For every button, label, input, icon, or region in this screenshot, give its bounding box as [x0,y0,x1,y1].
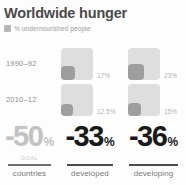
stat-unit: % [43,136,54,148]
stat-unit: % [167,136,178,148]
row-label-period: 2010–12 [6,95,37,104]
data-cell: 23% [128,48,160,80]
data-cell: 12.5% [61,84,93,116]
header: Worldwide hunger % undernourished people [4,6,182,32]
stat-developed: -33 % developed [59,120,121,185]
stat-figure: -36 % [121,122,186,151]
stat-caption: developed [59,169,121,178]
row-label-period: 1990–92 [6,59,37,68]
cell-inner-square [128,64,144,80]
cell-outer-square [61,84,93,116]
stat-number: -33 [65,122,102,151]
legend-swatch-icon [4,25,11,32]
stat-goal-note: GOAL [0,155,59,161]
cell-outer-square [128,48,160,80]
table-row: 2010–12 12.5% 15% [0,82,186,118]
cell-inner-square [61,66,75,80]
stat-number: -36 [129,122,166,151]
infographic-root: Worldwide hunger % undernourished people… [0,0,186,185]
data-cell: 15% [128,84,160,116]
legend-label: % undernourished people [14,25,90,32]
hunger-matrix: 1990–92 17% 23% 2010–12 12.5% [0,46,186,120]
stat-divider [67,164,113,166]
stats-row: -50 % GOAL countries -33 % developed -36… [0,120,186,185]
stat-number: -50 [5,122,42,151]
data-cell: 17% [61,48,93,80]
cell-value-label: 12.5% [97,108,115,115]
cell-inner-square [128,103,141,116]
cell-value-label: 15% [164,108,177,115]
page-title: Worldwide hunger [4,6,182,21]
stat-caption: developing [121,169,186,178]
stat-unit: % [104,136,115,148]
stat-developing: -36 % developing [121,120,186,185]
table-row: 1990–92 17% 23% [0,46,186,82]
stat-divider [8,164,51,166]
cell-outer-square [61,48,93,80]
stat-figure: -33 % [59,122,121,151]
stat-divider [129,164,178,166]
stat-countries: -50 % GOAL countries [0,120,59,185]
cell-value-label: 17% [97,72,110,79]
cell-value-label: 23% [164,72,177,79]
cell-inner-square [61,104,73,116]
cell-outer-square [128,84,160,116]
stat-caption: countries [0,169,59,178]
legend: % undernourished people [4,25,182,32]
stat-figure: -50 % [0,122,59,151]
